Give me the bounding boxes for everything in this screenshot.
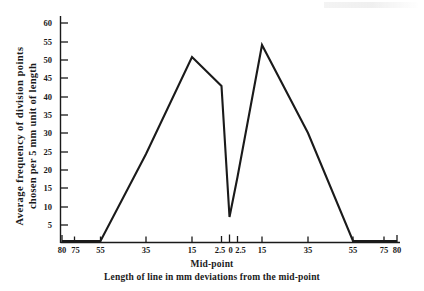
chart-figure: Average frequency of division points cho… (0, 0, 424, 291)
chart-plot-area (0, 0, 424, 291)
y-axis-ticks (61, 23, 69, 225)
x-axis-ticks (62, 235, 397, 243)
data-series-line (62, 45, 397, 241)
